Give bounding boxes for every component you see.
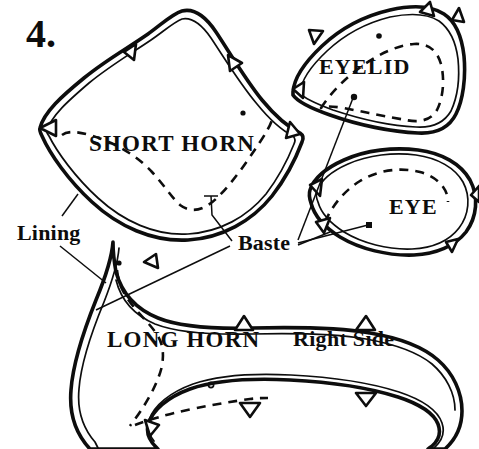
eyelid-notch xyxy=(420,2,434,16)
long-horn-notch xyxy=(240,403,260,417)
eyelid-notch xyxy=(309,30,323,44)
piece-label-short-horn: SHORT HORN xyxy=(89,132,255,155)
long-horn-notch xyxy=(144,254,158,268)
pattern-diagram-figure: 4. SHORT HORN EYELID EYE LONG HORN Right… xyxy=(0,0,479,449)
lining-leader-to-short-horn xyxy=(62,194,78,216)
short-horn-notch xyxy=(286,122,300,138)
step-number: 4. xyxy=(26,14,56,54)
piece-label-right-side: Right Side xyxy=(293,328,394,350)
eye-notch xyxy=(316,218,330,233)
long-horn-registration-dot xyxy=(116,260,121,265)
lining-leader-to-long-horn xyxy=(60,246,106,283)
eye-notch xyxy=(446,239,458,252)
eyelid-registration-dot xyxy=(376,33,382,39)
long-horn-notch xyxy=(356,393,376,406)
piece-label-eye: EYE xyxy=(389,196,438,218)
baste-leader-to-eye-second xyxy=(298,232,330,245)
pattern-piece-short-horn xyxy=(40,10,303,240)
annotation-label-baste: Baste xyxy=(238,232,290,254)
short-horn-registration-dot xyxy=(240,110,245,115)
annotation-label-lining: Lining xyxy=(17,222,81,244)
short-horn-seam-allowance-line xyxy=(47,19,295,234)
eyelid-notch xyxy=(452,8,464,22)
piece-label-eyelid: EYELID xyxy=(319,56,411,78)
short-horn-cut-line xyxy=(40,10,303,240)
piece-label-long-horn: LONG HORN xyxy=(107,328,260,351)
